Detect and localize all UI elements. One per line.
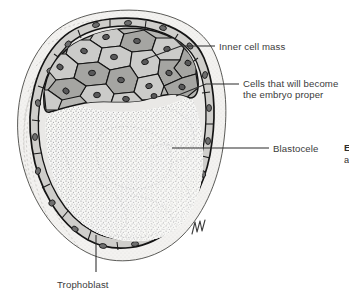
blastocyst-figure: Inner cell mass Cells that will become t… (0, 0, 349, 303)
label-blastocele: Blastocele (273, 143, 318, 155)
label-trophoblast: Trophoblast (57, 279, 109, 291)
cropped-plain-text-fragment: a (344, 155, 349, 165)
label-cells-embryo-proper-line2: the embryo proper (243, 89, 323, 101)
cropped-bold-text-fragment: E (344, 142, 349, 153)
label-inner-cell-mass: Inner cell mass (219, 41, 285, 53)
label-cells-embryo-proper-line1: Cells that will become (243, 78, 338, 90)
